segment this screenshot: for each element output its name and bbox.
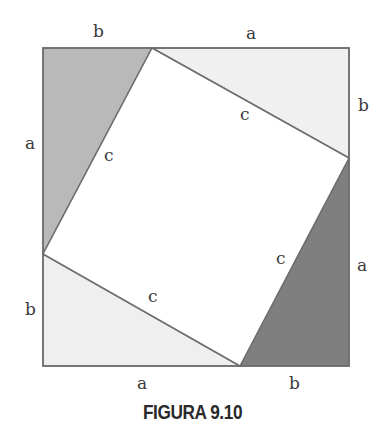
label-top-a: a: [246, 23, 256, 43]
label-bottom-b: b: [289, 373, 300, 393]
label-hyp-bottom-right: c: [276, 248, 286, 268]
label-left-b: b: [25, 299, 36, 319]
label-bottom-a: a: [137, 373, 147, 393]
label-hyp-top-right: c: [240, 104, 250, 124]
label-top-b: b: [93, 21, 104, 41]
label-right-b: b: [358, 95, 369, 115]
label-hyp-top-left: c: [104, 145, 114, 165]
figure-caption: FIGURA 9.10: [35, 400, 351, 424]
pythagorean-proof-diagram: b a a b b a a b c c c c: [0, 0, 385, 443]
label-right-a: a: [357, 255, 367, 275]
label-left-a: a: [25, 133, 35, 153]
label-hyp-bottom-left: c: [148, 286, 158, 306]
